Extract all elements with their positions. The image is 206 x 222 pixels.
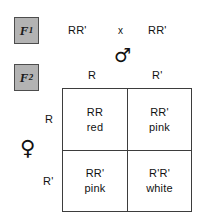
male-symbol-icon: ♂	[114, 46, 131, 65]
punnett-cell-0: RR red	[63, 89, 127, 150]
punnett-cell-2-phenotype: pink	[85, 181, 106, 196]
row-header-female-gamete-0: R	[45, 113, 53, 125]
row-header-female-gamete-1: R'	[43, 175, 53, 187]
punnett-cell-1: RR' pink	[127, 89, 191, 150]
cross-operator: x	[118, 25, 123, 36]
generation-label-f1: F1	[14, 17, 39, 44]
punnett-cell-3-phenotype: white	[146, 181, 173, 196]
generation-label-f2-letter: F	[20, 71, 29, 84]
cross-left-parent-genotype: RR'	[68, 24, 87, 36]
generation-label-f1-letter: F	[20, 24, 29, 37]
punnett-cell-3-genotype: R'R'	[149, 166, 170, 181]
punnett-grid: RR red RR' pink RR' pink R'R' white	[62, 88, 192, 212]
punnett-square-diagram: F1 RR' x RR' ♂ F2 R R' ♀ R R' RR red RR'…	[0, 0, 206, 222]
generation-label-f2: F2	[14, 64, 39, 91]
punnett-cell-0-genotype: RR	[87, 105, 103, 120]
column-header-male-gamete-0: R	[88, 69, 96, 81]
punnett-cell-1-genotype: RR'	[150, 105, 169, 120]
punnett-cell-2-genotype: RR'	[86, 166, 105, 181]
punnett-cell-3: R'R' white	[127, 150, 191, 211]
female-symbol-icon: ♀	[20, 138, 35, 159]
generation-label-f1-subscript: 1	[29, 26, 34, 35]
punnett-cell-0-phenotype: red	[87, 120, 104, 135]
generation-label-f2-subscript: 2	[29, 73, 34, 82]
punnett-cell-1-phenotype: pink	[149, 120, 170, 135]
column-header-male-gamete-1: R'	[152, 69, 162, 81]
cross-right-parent-genotype: RR'	[148, 24, 167, 36]
punnett-cell-2: RR' pink	[63, 150, 127, 211]
